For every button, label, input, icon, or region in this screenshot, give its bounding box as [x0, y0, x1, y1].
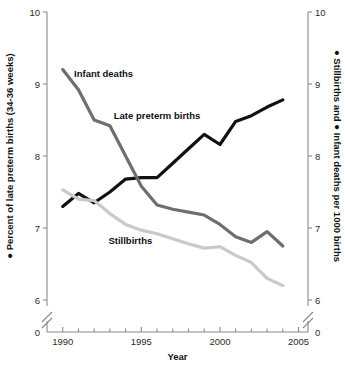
y-tick-label-left: 10 — [29, 7, 40, 18]
y-axis-title-left: ● Percent of late preterm births (34-36 … — [4, 53, 15, 258]
y-tick-label-right: 8 — [315, 151, 320, 162]
series-line-infant-deaths — [63, 70, 283, 246]
y-tick-label-right: 10 — [315, 7, 326, 18]
series-label-infant-deaths: Infant deaths — [74, 68, 133, 79]
x-tick-label: 1990 — [52, 336, 73, 347]
series-label-stillbirths: Stillbirths — [108, 235, 152, 246]
line-chart: 678910678910001990199520002005Late prete… — [0, 0, 345, 365]
y-tick-label-right: 6 — [315, 295, 320, 306]
y-zero-label-left: 0 — [35, 327, 40, 338]
y-tick-label-right: 9 — [315, 79, 320, 90]
y-tick-label-left: 9 — [35, 79, 40, 90]
y-tick-label-left: 8 — [35, 151, 40, 162]
x-tick-label: 1995 — [131, 336, 152, 347]
x-tick-label: 2005 — [288, 336, 309, 347]
series-label-late-preterm-births: Late preterm births — [114, 110, 201, 121]
axis-break-right-a — [303, 312, 313, 322]
x-tick-label: 2000 — [209, 336, 230, 347]
y-axis-title-right: ● Stillbirths and ● Infant deaths per 10… — [332, 50, 343, 262]
y-zero-label-right: 0 — [315, 327, 320, 338]
chart-container: 678910678910001990199520002005Late prete… — [0, 0, 345, 365]
axis-break-left-a — [42, 312, 52, 322]
y-tick-label-left: 7 — [35, 223, 40, 234]
y-tick-label-right: 7 — [315, 223, 320, 234]
series-line-stillbirths — [63, 190, 283, 286]
x-axis-title: Year — [167, 351, 187, 362]
y-tick-label-left: 6 — [35, 295, 40, 306]
